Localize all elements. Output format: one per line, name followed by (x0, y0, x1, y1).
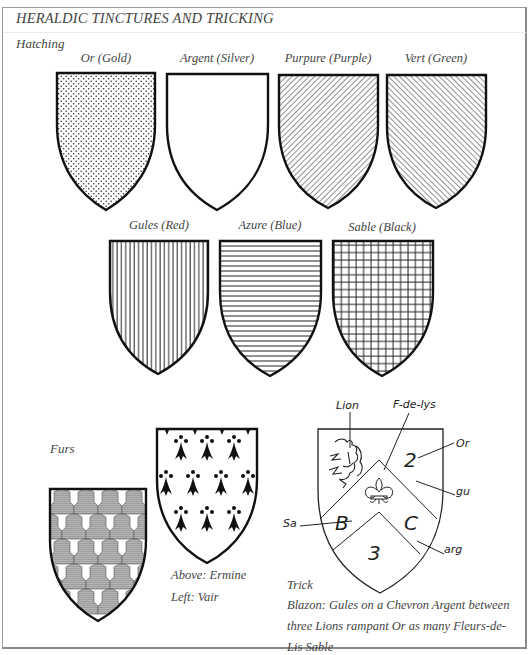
trick-mark-2: 2 (404, 448, 417, 472)
annotation-gules: gu (456, 485, 470, 498)
shield-gules (110, 241, 208, 374)
shield-vert (387, 75, 486, 208)
shield-azure (220, 241, 321, 376)
lion-icon (329, 439, 362, 488)
shield-vair (38, 487, 158, 627)
trick-mark-c: C (404, 511, 418, 535)
annotation-lion: Lion (336, 399, 359, 412)
shield-or (57, 73, 155, 210)
shield-sable (333, 241, 433, 376)
shield-ermine (155, 427, 260, 567)
shield-argent (167, 74, 268, 210)
annotation-sable: Sa (283, 517, 297, 530)
shield-trick: 2 B C 3 (300, 412, 455, 593)
annotation-or: Or (456, 437, 469, 450)
shields-drawing: 2 B C 3 (0, 0, 530, 655)
annotation-argent: arg (444, 543, 462, 556)
fleur-de-lys-icon (365, 478, 392, 504)
trick-mark-b: B (335, 511, 349, 535)
trick-mark-3: 3 (368, 541, 381, 565)
annotation-fleur-de-lys: F-de-lys (393, 398, 436, 411)
shield-purpure (279, 75, 378, 208)
